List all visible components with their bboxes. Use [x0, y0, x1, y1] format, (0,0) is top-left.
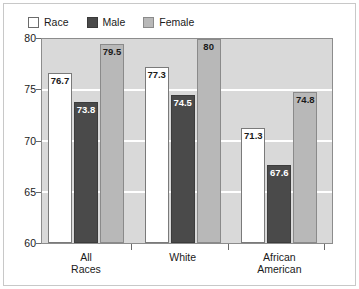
- bar-race-group-1: 77.3: [145, 67, 169, 243]
- bar-value-label: 67.6: [268, 168, 290, 178]
- legend-label-race: Race: [44, 17, 69, 28]
- x-axis-label-line: Races: [41, 263, 131, 275]
- chart-figure: Race Male Female 80 75 70 65 60 76.773.8…: [0, 0, 359, 289]
- y-tick-60: [36, 243, 41, 244]
- chart-legend: Race Male Female: [28, 14, 194, 30]
- bar-value-label: 73.8: [75, 105, 97, 115]
- x-axis-label-group-0: AllRaces: [41, 251, 131, 275]
- legend-item-female: Female: [143, 17, 194, 28]
- x-tick-group-1: [228, 244, 229, 250]
- y-tick-label-70: 70: [6, 136, 36, 147]
- bar-male-group-0: 73.8: [74, 102, 98, 243]
- female-swatch-icon: [143, 17, 154, 28]
- y-tick-label-60: 60: [6, 238, 36, 249]
- x-tick-group-0: [131, 244, 132, 250]
- x-axis-label-group-2: AfricanAmerican: [234, 251, 324, 275]
- bar-value-label: 74.8: [294, 95, 316, 105]
- y-tick-80: [36, 38, 41, 39]
- legend-item-male: Male: [87, 17, 126, 28]
- y-tick-label-75: 75: [6, 84, 36, 95]
- male-swatch-icon: [87, 17, 98, 28]
- bar-value-label: 79.5: [101, 47, 123, 57]
- bar-value-label: 71.3: [242, 131, 264, 141]
- bar-male-group-2: 67.6: [267, 165, 291, 243]
- bar-value-label: 80: [198, 42, 220, 52]
- bar-male-group-1: 74.5: [171, 95, 195, 243]
- x-axis-label-line: All: [41, 251, 131, 263]
- y-tick-65: [36, 192, 41, 193]
- x-tick-group-2: [324, 244, 325, 250]
- bar-value-label: 77.3: [146, 70, 168, 80]
- bar-female-group-1: 80: [197, 39, 221, 243]
- y-tick-label-65: 65: [6, 187, 36, 198]
- bar-value-label: 76.7: [49, 76, 71, 86]
- bars-layer: 76.773.879.577.374.58071.367.674.8: [42, 39, 332, 243]
- y-tick-75: [36, 89, 41, 90]
- x-axis-label-group-1: White: [138, 251, 228, 263]
- x-axis-label-line: African: [234, 251, 324, 263]
- bar-female-group-0: 79.5: [100, 44, 124, 243]
- bar-race-group-2: 71.3: [241, 128, 265, 243]
- x-axis-label-line: White: [138, 251, 228, 263]
- bar-race-group-0: 76.7: [48, 73, 72, 243]
- bar-value-label: 74.5: [172, 98, 194, 108]
- y-tick-label-80: 80: [6, 33, 36, 44]
- legend-label-female: Female: [159, 17, 194, 28]
- race-swatch-icon: [28, 17, 39, 28]
- legend-item-race: Race: [28, 17, 69, 28]
- legend-label-male: Male: [103, 17, 126, 28]
- x-axis-label-line: American: [234, 263, 324, 275]
- y-tick-70: [36, 141, 41, 142]
- bar-female-group-2: 74.8: [293, 92, 317, 243]
